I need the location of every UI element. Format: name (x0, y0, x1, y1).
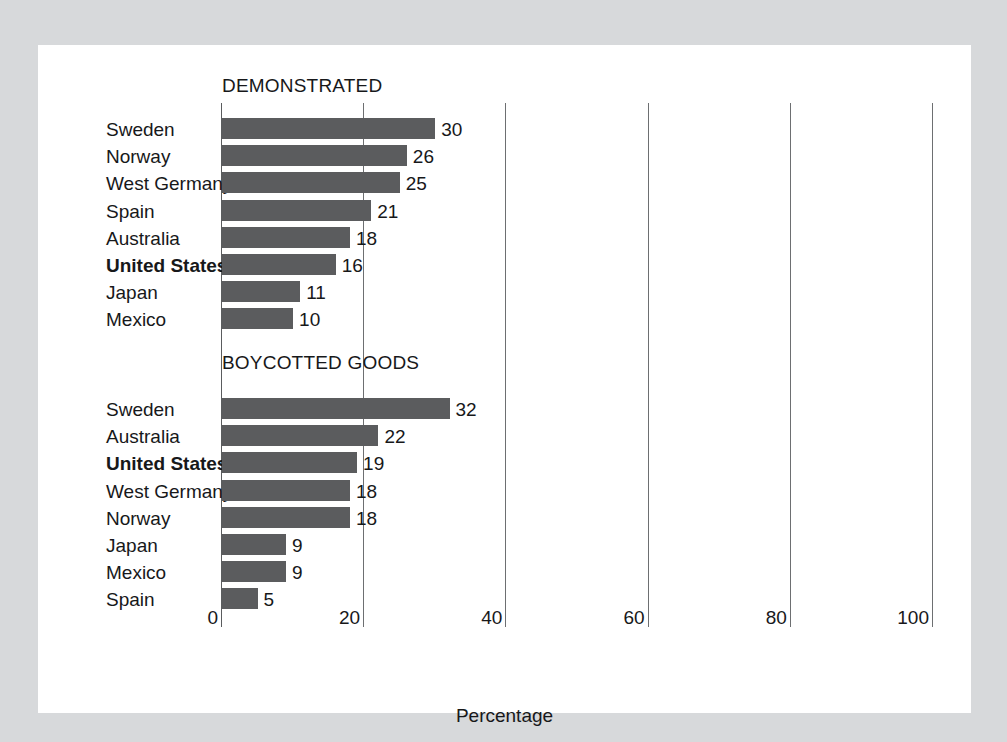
bar-value-label: 32 (456, 399, 477, 420)
chart-panel: DEMONSTRATED Sweden30Norway26West German… (38, 45, 971, 713)
bar (222, 507, 350, 528)
category-label: United States (106, 255, 227, 276)
bar-value-label: 21 (377, 201, 398, 222)
bar (222, 118, 435, 139)
bar (222, 425, 378, 446)
x-tick-label-80: 80 (766, 607, 787, 629)
bar-value-label: 30 (441, 119, 462, 140)
bar (222, 588, 258, 609)
bar-value-label: 22 (384, 426, 405, 447)
x-tick-label-0: 0 (207, 607, 218, 629)
bar (222, 227, 350, 248)
bar (222, 561, 286, 582)
bar (222, 281, 300, 302)
bar (222, 398, 450, 419)
bar-value-label: 11 (306, 282, 326, 303)
category-label: Australia (106, 426, 180, 447)
bar-value-label: 9 (292, 535, 303, 556)
bar-value-label: 10 (299, 309, 320, 330)
bar (222, 308, 293, 329)
x-axis-title: Percentage (38, 705, 971, 727)
chart-figure: DEMONSTRATED Sweden30Norway26West German… (0, 0, 1007, 742)
bar-value-label: 5 (264, 589, 275, 610)
category-label: West Germany (106, 173, 232, 194)
gridline-60 (648, 103, 649, 627)
bar (222, 452, 357, 473)
bar (222, 172, 400, 193)
x-tick-label-40: 40 (481, 607, 502, 629)
gridline-40 (505, 103, 506, 627)
x-tick-label-60: 60 (623, 607, 644, 629)
x-tick-label-100: 100 (897, 607, 929, 629)
group-title-boycotted-goods: BOYCOTTED GOODS (222, 352, 419, 374)
category-label: Mexico (106, 309, 166, 330)
bar-value-label: 16 (342, 255, 363, 276)
x-tick-label-20: 20 (339, 607, 360, 629)
bar-value-label: 18 (356, 508, 377, 529)
group-title-demonstrated: DEMONSTRATED (222, 75, 382, 97)
bar-value-label: 9 (292, 562, 303, 583)
category-label: Australia (106, 228, 180, 249)
category-label: United States (106, 453, 227, 474)
bar-value-label: 25 (406, 173, 427, 194)
category-label: Sweden (106, 399, 175, 420)
category-label: Norway (106, 508, 170, 529)
category-label: Sweden (106, 119, 175, 140)
category-label: Spain (106, 201, 155, 222)
category-label: Japan (106, 535, 158, 556)
bar-value-label: 19 (363, 453, 384, 474)
bar (222, 254, 336, 275)
bar (222, 200, 371, 221)
bar (222, 534, 286, 555)
category-label: Mexico (106, 562, 166, 583)
bar (222, 480, 350, 501)
category-label: Spain (106, 589, 155, 610)
bar-value-label: 18 (356, 228, 377, 249)
category-label: West Germany (106, 481, 232, 502)
bar-value-label: 26 (413, 146, 434, 167)
gridline-80 (790, 103, 791, 627)
category-label: Japan (106, 282, 158, 303)
gridline-100 (932, 103, 933, 627)
bar-value-label: 18 (356, 481, 377, 502)
category-label: Norway (106, 146, 170, 167)
bar (222, 145, 407, 166)
